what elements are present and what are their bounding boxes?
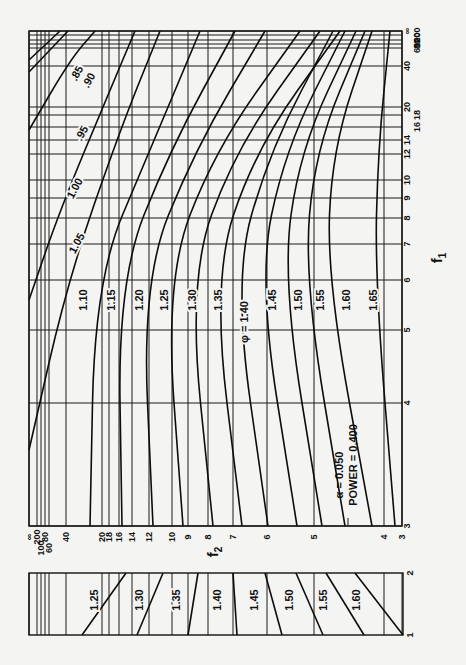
curve-label: 1.35 <box>212 289 224 310</box>
f1-tick-label: 4 <box>402 400 412 405</box>
phi-curve <box>376 31 395 526</box>
inset-curve-label: 1.50 <box>283 589 295 610</box>
curve-label: 1.10 <box>77 289 89 310</box>
f1-tick-label: 5 <box>402 327 412 332</box>
inset-tick-2: 2 <box>405 570 415 575</box>
f1-tick-label: 16 <box>412 122 422 132</box>
curve-label: φ = 1.40 <box>238 301 250 343</box>
f1-axis-label: f1 <box>428 252 448 263</box>
f2-tick-label: 4 <box>379 534 389 539</box>
inset-curve-label: 1.40 <box>211 589 223 610</box>
inset-phi-curve <box>265 573 282 635</box>
f2-tick-label: 8 <box>203 534 213 539</box>
f2-tick-label: 3 <box>397 534 407 539</box>
f2-tick-label: 60 <box>44 543 54 553</box>
inset-curve-label: 1.30 <box>133 589 145 610</box>
f1-tick-labels: 3456789101214161820406080100200∞ <box>402 27 422 528</box>
inset-curve-label: 1.45 <box>248 589 260 610</box>
alpha-label: α = 0.050 <box>333 452 345 499</box>
f2-tick-label: 12 <box>144 532 154 542</box>
phi-curve <box>90 31 200 526</box>
f2-tick-label: 5 <box>309 534 319 539</box>
curve-label: 1.30 <box>186 289 198 310</box>
inset-phi-curve <box>188 573 198 635</box>
f1-tick-label: ∞ <box>402 27 412 34</box>
f1-tick-label: 18 <box>412 110 422 120</box>
f1-tick-label: 40 <box>402 61 412 71</box>
f2-tick-label: 16 <box>114 532 124 542</box>
inset-curve-label: 1.35 <box>170 589 182 610</box>
curve-label: 1.15 <box>105 289 117 310</box>
f2-tick-label: 6 <box>262 534 272 539</box>
inset-curve-label: 1.55 <box>317 589 329 610</box>
f2-tick-label: 10 <box>167 532 177 542</box>
phi-curve <box>172 31 300 526</box>
f1-tick-label: 7 <box>402 241 412 246</box>
inset-phi-curve <box>233 573 237 635</box>
f2-tick-label: 80 <box>40 532 50 542</box>
curve-label: 1.25 <box>158 289 170 310</box>
f2-axis-label: f2 <box>204 546 224 557</box>
curve-label: 1.55 <box>314 289 326 310</box>
inset-tick-1: 1 <box>405 632 415 637</box>
inset-curve-label: 1.25 <box>88 589 100 610</box>
curve-label: 1.45 <box>266 289 278 310</box>
f2-tick-label: 14 <box>127 532 137 542</box>
phi-curve <box>288 31 356 526</box>
f1-tick-label: 200 <box>412 27 422 42</box>
f1-tick-label: 20 <box>402 102 412 112</box>
curve-label: 1.60 <box>340 289 352 310</box>
f2-tick-label: 9 <box>183 534 193 539</box>
annotation: α = 0.050 POWER = 0.400 <box>333 424 359 526</box>
f1-tick-label: 6 <box>402 277 412 282</box>
f1-tick-label: 8 <box>402 215 412 220</box>
inset-phi-curve <box>355 573 403 635</box>
f1-tick-label: 10 <box>402 175 412 185</box>
curve-label: 1.50 <box>292 289 304 310</box>
f2-tick-label: 7 <box>228 534 238 539</box>
f2-tick-label: 40 <box>61 532 71 542</box>
f1-tick-label: 3 <box>402 523 412 528</box>
curve-label: 1.65 <box>367 289 379 310</box>
inset-curve-label: 1.60 <box>350 589 362 610</box>
curve-label: 1.20 <box>133 289 145 310</box>
inset-curves: 1.251.301.351.401.451.501.551.60 <box>82 573 403 635</box>
f1-tick-label: 12 <box>402 149 412 159</box>
f1-tick-label: 9 <box>402 195 412 200</box>
f1-tick-label: 14 <box>402 135 412 145</box>
f2-tick-label: 18 <box>104 532 114 542</box>
power-label: POWER = 0.400 <box>347 424 359 506</box>
power-chart: 3456789101214161820406080100200∞ ∞200100… <box>0 0 466 665</box>
